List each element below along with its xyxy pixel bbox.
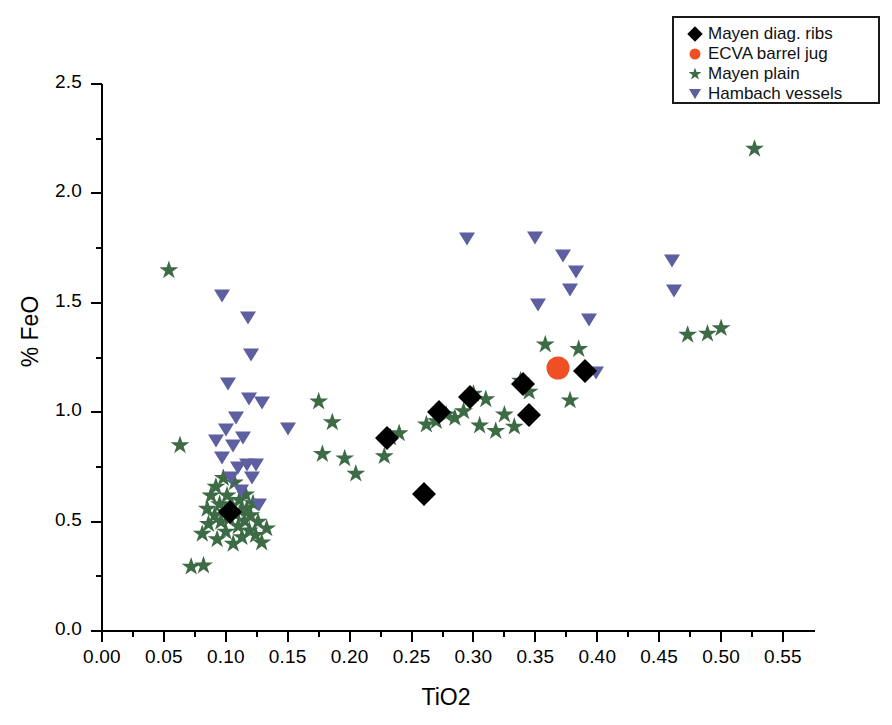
x-axis-tick-label: 0.15 xyxy=(253,646,323,668)
data-point-triangle-down xyxy=(235,432,251,445)
data-point-triangle-down xyxy=(218,423,234,436)
y-axis-title: % FeO xyxy=(17,242,44,422)
x-axis-title: TiO2 xyxy=(0,684,892,711)
x-axis-major-tick xyxy=(411,631,413,642)
y-axis-tick-label: 0.5 xyxy=(10,509,82,531)
y-axis-minor-tick xyxy=(96,138,102,140)
data-point-triangle-down xyxy=(664,255,680,268)
legend-label: Mayen plain xyxy=(708,64,800,84)
x-axis-tick-label: 0.45 xyxy=(624,646,694,668)
data-point-star xyxy=(536,335,555,354)
data-point-star xyxy=(678,325,697,344)
y-axis-minor-tick xyxy=(96,247,102,249)
x-axis-tick-label: 0.55 xyxy=(748,646,818,668)
x-axis-tick-label: 0.20 xyxy=(315,646,385,668)
x-axis-major-tick xyxy=(349,631,351,642)
data-point-star xyxy=(569,339,588,358)
data-point-diamond xyxy=(375,426,399,450)
data-point-triangle-down xyxy=(555,249,571,262)
data-point-star xyxy=(335,449,354,468)
star-marker-icon xyxy=(682,64,708,84)
x-axis-tick-label: 0.25 xyxy=(377,646,447,668)
data-point-triangle-down xyxy=(562,283,578,296)
x-axis-major-tick xyxy=(534,631,536,642)
triangle-down-marker-icon xyxy=(682,84,708,104)
data-point-triangle-down xyxy=(666,284,682,297)
x-axis-minor-tick xyxy=(132,631,134,637)
legend-label: ECVA barrel jug xyxy=(708,44,828,64)
x-axis-major-tick xyxy=(225,631,227,642)
circle-marker-icon xyxy=(682,44,708,64)
x-axis-major-tick xyxy=(658,631,660,642)
y-axis-major-tick xyxy=(91,83,102,85)
data-point-circle xyxy=(546,357,569,380)
x-axis-tick-label: 0.10 xyxy=(191,646,261,668)
data-point-triangle-down xyxy=(240,312,256,325)
x-axis-major-tick xyxy=(782,631,784,642)
data-point-triangle-down xyxy=(581,314,597,327)
y-axis-major-tick xyxy=(91,302,102,304)
x-axis-major-tick xyxy=(163,631,165,642)
data-point-star xyxy=(171,436,190,455)
y-axis-tick-label: 0.0 xyxy=(10,618,82,640)
data-point-triangle-down xyxy=(527,232,543,245)
y-axis-major-tick xyxy=(91,630,102,632)
y-axis-tick-label: 2.0 xyxy=(10,180,82,202)
legend-item-hambach-vessels: Hambach vessels xyxy=(682,84,870,104)
x-axis-tick-label: 0.05 xyxy=(129,646,199,668)
data-point-triangle-down xyxy=(248,458,264,471)
data-point-triangle-down xyxy=(233,484,249,497)
data-point-star xyxy=(309,392,328,411)
diamond-marker-icon xyxy=(682,24,708,44)
data-point-triangle-down xyxy=(214,290,230,303)
x-axis-tick-label: 0.00 xyxy=(67,646,137,668)
chart-root: 0.000.050.100.150.200.250.300.350.400.45… xyxy=(0,0,892,725)
data-point-triangle-down xyxy=(228,411,244,424)
data-point-star xyxy=(159,260,178,279)
y-axis-minor-tick xyxy=(96,466,102,468)
x-axis-tick-label: 0.50 xyxy=(686,646,756,668)
x-axis-tick-label: 0.30 xyxy=(438,646,508,668)
data-point-star xyxy=(375,446,394,465)
y-axis-minor-tick xyxy=(96,575,102,577)
x-axis-minor-tick xyxy=(565,631,567,637)
x-axis-minor-tick xyxy=(194,631,196,637)
data-point-star xyxy=(486,421,505,440)
x-axis-minor-tick xyxy=(256,631,258,637)
x-axis-minor-tick xyxy=(503,631,505,637)
x-axis-minor-tick xyxy=(689,631,691,637)
x-axis-tick-label: 0.35 xyxy=(500,646,570,668)
legend-item-ecva-barrel-jug: ECVA barrel jug xyxy=(682,44,870,64)
data-point-star xyxy=(313,444,332,463)
data-point-star xyxy=(470,416,489,435)
y-axis-minor-tick xyxy=(96,357,102,359)
data-point-star xyxy=(561,391,580,410)
data-point-triangle-down xyxy=(251,499,267,512)
x-axis-minor-tick xyxy=(380,631,382,637)
scatter-plot-area xyxy=(0,0,892,725)
x-axis-major-tick xyxy=(596,631,598,642)
legend: Mayen diag. ribs ECVA barrel jug Mayen p… xyxy=(672,16,880,104)
y-axis-major-tick xyxy=(91,192,102,194)
data-point-triangle-down xyxy=(530,298,546,311)
data-point-triangle-down xyxy=(280,422,296,435)
x-axis-minor-tick xyxy=(751,631,753,637)
y-axis-major-tick xyxy=(91,411,102,413)
x-axis-minor-tick xyxy=(318,631,320,637)
y-axis-major-tick xyxy=(91,521,102,523)
x-axis-minor-tick xyxy=(627,631,629,637)
legend-label: Hambach vessels xyxy=(708,84,842,104)
data-point-triangle-down xyxy=(254,397,270,410)
data-point-star xyxy=(745,139,764,158)
data-point-star xyxy=(346,464,365,483)
data-point-star xyxy=(495,405,514,424)
data-point-star xyxy=(323,413,342,432)
data-point-triangle-down xyxy=(568,266,584,279)
legend-item-mayen-diag-ribs: Mayen diag. ribs xyxy=(682,24,870,44)
x-axis-major-tick xyxy=(101,631,103,642)
y-axis-tick-label: 2.5 xyxy=(10,71,82,93)
data-point-star xyxy=(712,318,731,337)
data-point-triangle-down xyxy=(244,471,260,484)
x-axis-tick-label: 0.40 xyxy=(562,646,632,668)
x-axis-major-tick xyxy=(472,631,474,642)
